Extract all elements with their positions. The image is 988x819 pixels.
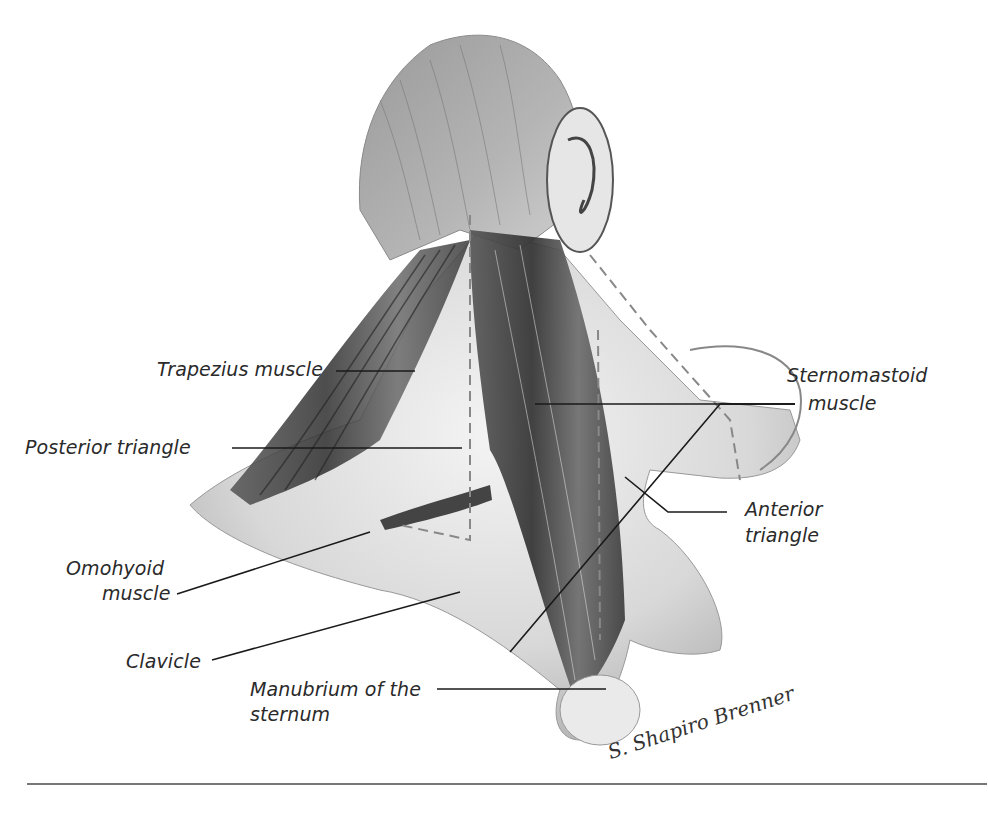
label-manubrium-line2: sternum — [250, 703, 330, 725]
label-sternomastoid-muscle-line2: muscle — [808, 392, 876, 414]
label-sternomastoid-muscle: Sternomastoid — [787, 364, 927, 386]
label-manubrium: Manubrium of the — [250, 678, 421, 700]
label-clavicle: Clavicle — [126, 650, 201, 672]
bottom-divider — [27, 783, 987, 785]
label-anterior-triangle-line2: triangle — [745, 524, 819, 546]
label-anterior-triangle: Anterior — [745, 498, 823, 520]
label-trapezius-muscle: Trapezius muscle — [157, 358, 323, 380]
label-posterior-triangle: Posterior triangle — [25, 436, 191, 458]
anatomy-figure: Trapezius muscle Posterior triangle Ster… — [0, 0, 988, 819]
label-omohyoid-muscle: Omohyoid — [66, 557, 164, 579]
ear — [547, 108, 613, 252]
label-omohyoid-muscle-line2: muscle — [102, 582, 170, 604]
